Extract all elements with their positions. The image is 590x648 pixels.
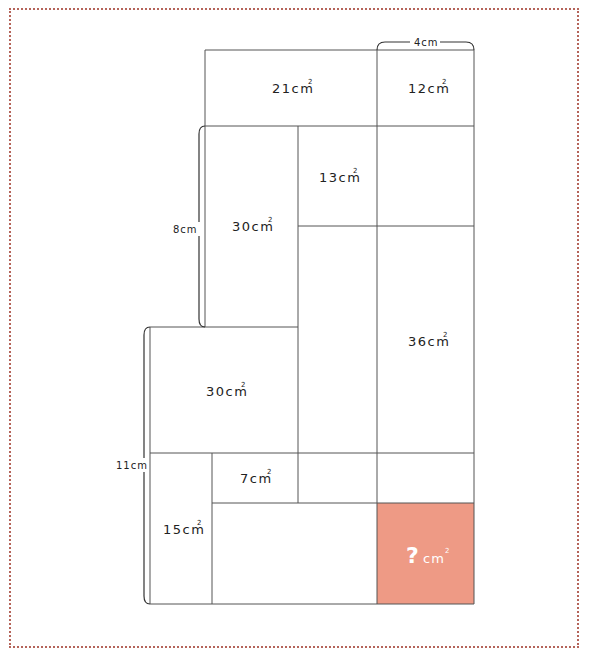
region-sup-7: 2 <box>267 468 271 476</box>
unknown-unit: cm <box>423 551 445 566</box>
region-sup-30a: 2 <box>268 216 272 224</box>
region-sup-12: 2 <box>442 78 446 86</box>
region-sup-13: 2 <box>353 167 357 175</box>
region-sup-30b: 2 <box>241 381 245 389</box>
region-sup-36: 2 <box>443 331 447 339</box>
dim-label-left-upper: 8cm <box>173 224 198 235</box>
dim-label-top: 4cm <box>414 37 439 48</box>
region-sup-15: 2 <box>197 519 201 527</box>
region-sup-21: 2 <box>308 78 312 86</box>
unknown-sup: 2 <box>445 547 449 555</box>
unknown-question-mark: ? <box>406 543 419 568</box>
dim-label-left-lower: 11cm <box>116 460 148 471</box>
